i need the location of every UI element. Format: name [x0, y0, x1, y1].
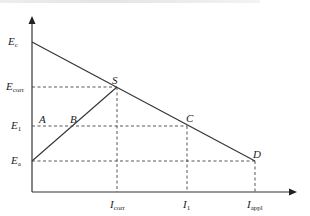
label-Ec: Ec: [7, 35, 18, 49]
axes: [29, 16, 298, 196]
x-axis-arrow-icon: [289, 189, 297, 196]
point-A: A: [38, 113, 46, 125]
point-B: B: [70, 113, 77, 125]
label-Ecorr: Ecorr: [5, 80, 25, 94]
polarization-diagram: Ec Ecorr E1 Ea Icorr I1 Iappl A B S C D: [0, 0, 310, 216]
label-E1: E1: [10, 119, 22, 133]
point-C: C: [186, 112, 194, 124]
y-axis-arrow-icon: [29, 16, 36, 24]
cathodic-line: [32, 42, 255, 161]
label-Ea: Ea: [10, 154, 22, 168]
label-Iappl: Iappl: [246, 198, 263, 212]
label-I1: I1: [182, 198, 191, 212]
point-D: D: [252, 148, 261, 160]
label-Icorr: Icorr: [109, 198, 126, 212]
dashed-guides: [32, 87, 255, 192]
point-S: S: [112, 74, 118, 86]
